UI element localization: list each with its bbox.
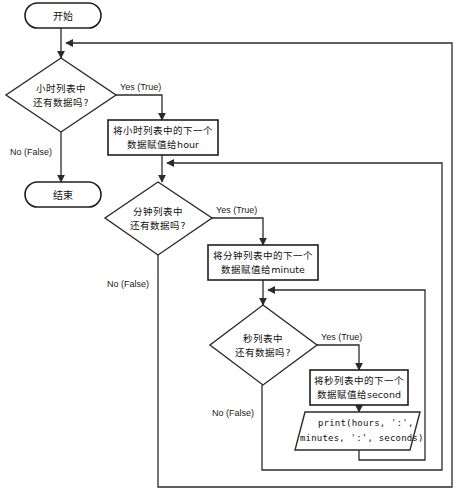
node-start: 开始 [25,3,101,28]
second-decision-shape [210,305,317,385]
edge-minute-yes [212,218,263,245]
label-second-no: No (False) [212,408,254,418]
second-decision-line1: 秒列表中 [243,333,283,344]
node-hour-process: 将小时列表中的下一个 数据赋值给hour [108,120,218,155]
minute-decision-line1: 分钟列表中 [133,206,183,217]
second-decision-line2: 还有数据吗? [235,347,290,358]
flowchart-canvas: 开始 小时列表中 还有数据吗? Yes (True) No (False) 结束… [0,0,459,495]
second-process-line2: 数据赋值给second [317,389,401,400]
node-minute-process: 将分钟列表中的下一个 数据赋值给minute [208,245,318,280]
hour-decision-line1: 小时列表中 [36,83,86,94]
node-print-output: print(hours, ':', minutes, ':', seconds) [295,412,424,450]
node-end: 结束 [25,182,101,207]
start-label: 开始 [53,10,73,22]
label-hour-yes: Yes (True) [120,82,161,92]
node-second-process: 将秒列表中的下一个 数据赋值给second [310,370,408,405]
hour-decision-line2: 还有数据吗? [33,97,88,108]
hour-process-line1: 将小时列表中的下一个 [113,125,213,136]
minute-decision-shape [105,182,212,255]
flowchart-svg: 开始 小时列表中 还有数据吗? Yes (True) No (False) 结束… [0,0,459,495]
edge-hour-yes [116,95,162,120]
node-second-decision: 秒列表中 还有数据吗? [210,305,317,385]
hour-decision-shape [6,58,116,132]
second-process-line1: 将秒列表中的下一个 [314,375,404,386]
node-hour-decision: 小时列表中 还有数据吗? [6,58,116,132]
print-output-line2: minutes, ':', seconds) [300,433,424,443]
print-output-line1: print(hours, ':', [318,418,414,428]
label-minute-yes: Yes (True) [216,205,257,215]
label-second-yes: Yes (True) [321,332,362,342]
minute-process-line1: 将分钟列表中的下一个 [213,250,313,261]
minute-decision-line2: 还有数据吗? [130,220,185,231]
edge-second-yes [317,345,359,370]
label-minute-no: No (False) [107,279,149,289]
label-hour-no: No (False) [10,147,52,157]
node-minute-decision: 分钟列表中 还有数据吗? [105,182,212,255]
minute-process-line2: 数据赋值给minute [221,264,305,275]
hour-process-line2: 数据赋值给hour [127,139,199,150]
end-label: 结束 [53,189,73,201]
